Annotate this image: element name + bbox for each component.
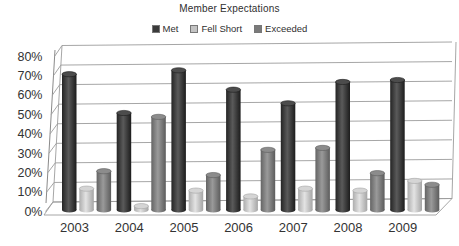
chart-title: Member Expectations xyxy=(0,3,459,14)
y-axis-label-10pct: 10% xyxy=(17,185,42,199)
bar-met-2006 xyxy=(226,90,241,210)
axis-tick-hook xyxy=(49,143,56,153)
bar-met-2007 xyxy=(281,103,296,210)
bar-top-fell-short-2003 xyxy=(79,186,94,191)
axis-tick-hook xyxy=(51,104,58,114)
bar-fell-short-2007 xyxy=(298,189,313,210)
chart-plot: 20032004200520062007200820090%10%20%30%4… xyxy=(0,0,459,246)
legend-label-fell-short: Fell Short xyxy=(201,23,242,34)
bar-top-exceeded-2003 xyxy=(97,169,112,174)
bar-exceeded-2009 xyxy=(425,185,440,210)
bar-fell-short-2008 xyxy=(353,191,368,210)
bar-top-fell-short-2006 xyxy=(243,194,258,199)
gridline xyxy=(62,42,452,46)
bar-fell-short-2009 xyxy=(408,181,423,210)
bar-top-fell-short-2009 xyxy=(408,178,423,183)
bar-top-met-2003 xyxy=(62,72,77,77)
x-axis-label-2006: 2006 xyxy=(224,220,253,235)
bar-top-met-2009 xyxy=(390,77,405,82)
chart-canvas: 20032004200520062007200820090%10%20%30%4… xyxy=(0,0,459,246)
legend-swatch-fell-short xyxy=(190,25,198,33)
y-axis-label-40pct: 40% xyxy=(17,127,42,141)
bar-top-exceeded-2009 xyxy=(425,182,440,187)
bar-fell-short-2003 xyxy=(79,189,94,210)
legend-item-exceeded: Exceeded xyxy=(254,23,307,34)
axis-tick-hook xyxy=(47,182,54,192)
y-axis-line xyxy=(46,50,55,203)
bar-exceeded-2008 xyxy=(370,173,385,210)
bar-top-exceeded-2004 xyxy=(151,114,166,119)
x-axis-label-2005: 2005 xyxy=(169,220,198,235)
bar-top-met-2004 xyxy=(117,110,132,115)
y-axis-label-60pct: 60% xyxy=(17,88,42,102)
bar-met-2003 xyxy=(62,74,77,210)
bar-exceeded-2004 xyxy=(151,117,166,210)
bar-top-exceeded-2006 xyxy=(261,147,276,152)
legend-item-met: Met xyxy=(152,23,179,34)
bar-exceeded-2006 xyxy=(261,150,276,210)
y-axis-label-30pct: 30% xyxy=(17,147,42,161)
bar-top-exceeded-2007 xyxy=(315,145,330,150)
bar-top-met-2005 xyxy=(171,68,186,73)
x-axis-label-2008: 2008 xyxy=(334,220,363,235)
wall-right-edge xyxy=(452,42,456,199)
bar-met-2004 xyxy=(117,113,132,210)
axis-tick-hook xyxy=(50,124,57,134)
axis-tick-hook xyxy=(48,163,55,173)
x-axis-label-2009: 2009 xyxy=(388,220,417,235)
bar-top-exceeded-2008 xyxy=(370,171,385,176)
legend-item-fell-short: Fell Short xyxy=(190,23,242,34)
y-axis-label-70pct: 70% xyxy=(17,69,42,83)
x-axis-label-2003: 2003 xyxy=(60,220,89,235)
x-axis-label-2004: 2004 xyxy=(115,220,144,235)
bar-top-exceeded-2005 xyxy=(206,172,221,177)
legend-label-exceeded: Exceeded xyxy=(265,23,307,34)
legend-swatch-exceeded xyxy=(254,25,262,33)
bar-fell-short-2005 xyxy=(189,191,204,210)
chart-legend: MetFell ShortExceeded xyxy=(0,23,459,34)
bar-exceeded-2007 xyxy=(315,148,330,210)
bar-exceeded-2005 xyxy=(206,175,221,210)
legend-label-met: Met xyxy=(163,23,179,34)
bar-top-met-2007 xyxy=(281,101,296,106)
axis-tick-hook xyxy=(52,85,59,95)
gridline xyxy=(61,62,452,66)
bar-met-2008 xyxy=(336,82,351,210)
y-axis-label-20pct: 20% xyxy=(17,166,42,180)
legend-swatch-met xyxy=(152,25,160,33)
bar-top-met-2006 xyxy=(226,87,241,92)
bar-top-fell-short-2004 xyxy=(134,204,149,209)
axis-tick-hook xyxy=(55,46,62,57)
bar-top-fell-short-2008 xyxy=(353,188,368,193)
x-axis-label-2007: 2007 xyxy=(279,220,308,235)
bar-met-2005 xyxy=(171,70,186,210)
bar-met-2009 xyxy=(390,80,405,210)
bar-top-fell-short-2005 xyxy=(189,188,204,193)
axis-tick-hook xyxy=(53,65,60,76)
y-axis-label-0pct: 0% xyxy=(24,205,42,219)
bar-exceeded-2003 xyxy=(97,171,112,210)
bar-top-met-2008 xyxy=(336,79,351,84)
bar-top-fell-short-2007 xyxy=(298,186,313,191)
y-axis-label-50pct: 50% xyxy=(17,108,42,122)
y-axis-label-80pct: 80% xyxy=(17,50,42,64)
